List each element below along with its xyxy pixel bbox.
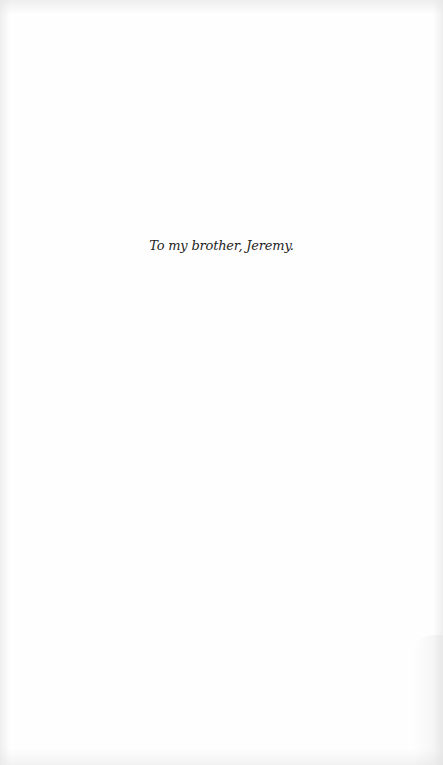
page-corner-shadow (413, 635, 443, 765)
page-edge-bottom (0, 749, 443, 765)
page-edge-left (0, 0, 10, 765)
dedication-text: To my brother, Jeremy. (0, 238, 443, 253)
page-edge-top (0, 0, 443, 14)
book-page: To my brother, Jeremy. (0, 0, 443, 765)
